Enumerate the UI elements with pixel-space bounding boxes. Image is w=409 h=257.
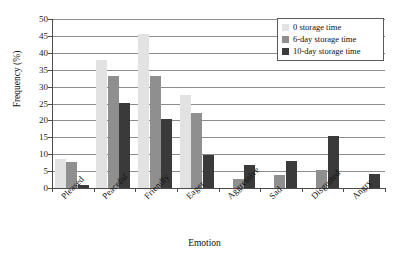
y-tick-label: 40 bbox=[39, 48, 48, 57]
bar-group bbox=[55, 19, 89, 188]
y-tick-label: 45 bbox=[39, 31, 48, 40]
y-tick-mark bbox=[48, 120, 52, 121]
bar bbox=[150, 76, 161, 188]
y-tick-mark bbox=[48, 154, 52, 155]
x-tick-mark bbox=[260, 188, 261, 192]
legend-swatch-icon bbox=[282, 36, 289, 43]
bar bbox=[96, 60, 107, 188]
y-axis-tick-labels: 05101520253035404550 bbox=[26, 0, 48, 257]
y-tick-mark bbox=[48, 19, 52, 20]
bar-group bbox=[180, 19, 214, 188]
y-tick-label: 15 bbox=[39, 133, 48, 142]
legend-item-0: 0 storage time bbox=[282, 22, 379, 33]
y-tick-label: 20 bbox=[39, 116, 48, 125]
legend-label: 0 storage time bbox=[293, 23, 341, 32]
legend-item-2: 10-day storage time bbox=[282, 46, 379, 57]
x-tick-mark bbox=[135, 188, 136, 192]
bar-group bbox=[221, 19, 255, 188]
legend-item-1: 6-day storage time bbox=[282, 34, 379, 45]
x-axis-title: Emotion bbox=[0, 238, 409, 248]
y-tick-label: 50 bbox=[39, 15, 48, 24]
bar-chart: Frequency (%) 05101520253035404550 Pleas… bbox=[0, 0, 409, 257]
x-tick-mark bbox=[302, 188, 303, 192]
legend-label: 6-day storage time bbox=[293, 35, 356, 44]
x-tick-mark bbox=[177, 188, 178, 192]
bar bbox=[286, 161, 297, 188]
y-tick-mark bbox=[48, 171, 52, 172]
legend-label: 10-day storage time bbox=[293, 47, 361, 56]
bar bbox=[180, 95, 191, 188]
y-tick-mark bbox=[48, 104, 52, 105]
bar-group bbox=[96, 19, 130, 188]
x-tick-mark bbox=[52, 188, 53, 192]
y-tick-mark bbox=[48, 70, 52, 71]
x-tick-mark bbox=[343, 188, 344, 192]
bar-group bbox=[138, 19, 172, 188]
bar bbox=[191, 113, 202, 188]
y-tick-label: 35 bbox=[39, 65, 48, 74]
bar bbox=[55, 159, 66, 188]
y-tick-label: 10 bbox=[39, 150, 48, 159]
y-tick-mark bbox=[48, 188, 52, 189]
legend-swatch-icon bbox=[282, 48, 289, 55]
y-tick-mark bbox=[48, 137, 52, 138]
y-tick-label: 25 bbox=[39, 99, 48, 108]
bar bbox=[138, 34, 149, 188]
x-tick-mark bbox=[385, 188, 386, 192]
bar bbox=[108, 76, 119, 188]
legend: 0 storage time 6-day storage time 10-day… bbox=[277, 18, 384, 61]
y-tick-mark bbox=[48, 87, 52, 88]
y-axis-title: Frequency (%) bbox=[12, 24, 22, 134]
y-tick-label: 30 bbox=[39, 82, 48, 91]
y-tick-mark bbox=[48, 36, 52, 37]
x-tick-mark bbox=[94, 188, 95, 192]
legend-swatch-icon bbox=[282, 24, 289, 31]
x-tick-mark bbox=[219, 188, 220, 192]
y-tick-mark bbox=[48, 53, 52, 54]
